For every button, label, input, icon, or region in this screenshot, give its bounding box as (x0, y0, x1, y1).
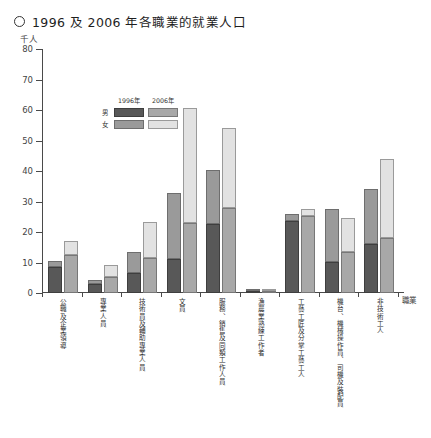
bar-segment-male-1996[interactable] (285, 221, 299, 293)
bar-segment-female-1996[interactable] (206, 170, 220, 224)
bar-segment-male-1996[interactable] (167, 259, 181, 293)
y-axis-tick (36, 202, 42, 203)
bar-1996[interactable] (246, 291, 260, 293)
y-axis-line (42, 49, 43, 293)
bar-segment-male-2006[interactable] (341, 252, 355, 293)
y-axis-tick-label: 40 (22, 166, 33, 176)
y-axis-tick-label: 70 (22, 75, 33, 85)
bar-segment-female-2006[interactable] (183, 108, 197, 222)
y-axis-tick (36, 171, 42, 172)
bar-segment-female-2006[interactable] (104, 265, 118, 278)
bar-segment-female-2006[interactable] (341, 218, 355, 252)
bar-group (48, 49, 82, 293)
page-title: 1996 及 2006 年各職業的就業人口 (14, 12, 246, 31)
bar-1996[interactable] (285, 214, 299, 293)
legend-swatch-female-1996 (114, 120, 144, 129)
bar-segment-female-1996[interactable] (88, 280, 102, 284)
x-axis-tick (398, 293, 399, 297)
bar-1996[interactable] (127, 252, 141, 293)
bar-segment-male-2006[interactable] (183, 223, 197, 293)
y-axis-tick-label: 80 (22, 44, 33, 54)
x-axis-category-label: 機台、機械操作員、司機及裝配員 (335, 298, 342, 408)
y-axis-tick (36, 263, 42, 264)
bar-segment-male-1996[interactable] (246, 291, 260, 293)
x-axis-tick (358, 293, 359, 297)
bar-segment-female-2006[interactable] (262, 289, 276, 291)
x-axis-category-label: 技術員及輔助專業人員 (137, 298, 144, 371)
x-axis-tick (121, 293, 122, 297)
bar-segment-female-2006[interactable] (380, 159, 394, 239)
bar-group (127, 49, 161, 293)
bar-segment-male-2006[interactable] (222, 208, 236, 293)
x-axis-tick (240, 293, 241, 297)
bar-segment-female-1996[interactable] (167, 193, 181, 259)
x-axis-category-label: 漁農業熟練工作者 (256, 298, 263, 356)
x-axis-tick (82, 293, 83, 297)
y-axis-tick (36, 49, 42, 50)
bar-segment-female-1996[interactable] (246, 289, 260, 291)
bar-2006[interactable] (341, 218, 355, 293)
y-axis-tick-label: 20 (22, 227, 33, 237)
y-axis-tick (36, 232, 42, 233)
bar-group (246, 49, 280, 293)
bar-segment-female-1996[interactable] (364, 189, 378, 244)
bar-1996[interactable] (206, 170, 220, 293)
bar-segment-male-1996[interactable] (48, 267, 62, 293)
y-axis-tick-label: 50 (22, 136, 33, 146)
bar-2006[interactable] (262, 291, 276, 293)
bar-segment-female-2006[interactable] (64, 241, 78, 255)
bar-2006[interactable] (222, 128, 236, 293)
bar-2006[interactable] (64, 241, 78, 293)
x-axis-category-label: 文員 (177, 298, 184, 313)
bar-segment-female-2006[interactable] (222, 128, 236, 209)
x-axis-category-label: 公職及企業領導 (58, 298, 65, 349)
bar-segment-female-1996[interactable] (285, 214, 299, 221)
bar-group (167, 49, 201, 293)
x-axis-category-label: 非技術工人 (374, 298, 381, 335)
y-axis-unit-label: 千人 (20, 32, 38, 44)
x-axis-tick (319, 293, 320, 297)
bar-segment-male-2006[interactable] (301, 216, 315, 293)
x-axis-name-label: 職業 (402, 294, 416, 305)
bar-segment-female-1996[interactable] (48, 261, 62, 267)
legend-row-male: 男 (100, 106, 180, 118)
bar-segment-male-1996[interactable] (127, 273, 141, 293)
bar-segment-female-1996[interactable] (127, 252, 141, 272)
bar-segment-male-1996[interactable] (364, 244, 378, 293)
chart-plot-area: 千人 職業 01020304050607080 公職及企業領導專業人員技術員及輔… (42, 49, 398, 293)
circle-outline-icon (14, 16, 25, 27)
legend-row-female: 女 (100, 118, 180, 130)
bar-2006[interactable] (104, 265, 118, 293)
x-axis-tick (279, 293, 280, 297)
bar-segment-male-2006[interactable] (104, 277, 118, 293)
bar-1996[interactable] (325, 209, 339, 293)
bar-segment-male-2006[interactable] (262, 291, 276, 293)
bar-1996[interactable] (48, 261, 62, 293)
bar-1996[interactable] (364, 189, 378, 293)
bar-group (88, 49, 122, 293)
bar-group (325, 49, 359, 293)
bar-2006[interactable] (143, 222, 157, 293)
legend-swatch-male-1996 (114, 108, 144, 117)
page-title-text: 1996 及 2006 年各職業的就業人口 (32, 12, 246, 31)
bar-segment-male-2006[interactable] (143, 258, 157, 293)
bar-segment-female-1996[interactable] (325, 209, 339, 262)
bar-2006[interactable] (301, 209, 315, 293)
bar-2006[interactable] (183, 108, 197, 293)
bar-segment-male-1996[interactable] (206, 224, 220, 293)
bar-segment-male-2006[interactable] (64, 255, 78, 293)
bar-2006[interactable] (380, 159, 394, 294)
bar-segment-female-2006[interactable] (301, 209, 315, 216)
bar-1996[interactable] (88, 280, 102, 293)
bar-segment-female-2006[interactable] (143, 222, 157, 258)
bar-segment-male-1996[interactable] (325, 262, 339, 293)
chart-legend: 1996年 2006年 男 女 (100, 95, 180, 130)
bar-1996[interactable] (167, 193, 181, 293)
legend-swatch-male-2006 (148, 108, 178, 117)
y-axis-tick-label: 10 (22, 258, 33, 268)
bar-segment-male-2006[interactable] (380, 238, 394, 293)
legend-label-male: 男 (100, 106, 112, 118)
bar-segment-male-1996[interactable] (88, 284, 102, 293)
bar-group (285, 49, 319, 293)
x-axis-tick (200, 293, 201, 297)
